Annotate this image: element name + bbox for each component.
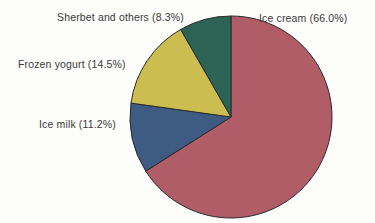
pie-slices <box>130 16 332 218</box>
pie-label-sherbet-and-others: Sherbet and others (8.3%) <box>57 11 184 24</box>
pie-label-ice-cream: Ice cream (66.0%) <box>259 12 347 25</box>
pie-label-frozen-yogurt: Frozen yogurt (14.5%) <box>18 58 126 71</box>
pie-label-ice-milk: Ice milk (11.2%) <box>39 118 116 131</box>
pie-chart-graphic <box>0 0 375 223</box>
pie-chart-figure: Sherbet and others (8.3%) Ice cream (66.… <box>0 0 375 223</box>
